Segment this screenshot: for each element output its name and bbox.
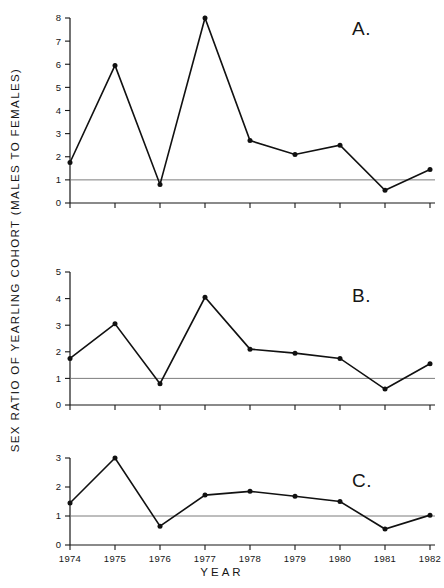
figure-plot-area: 0123456780123450123197419751976197719781… <box>0 0 444 588</box>
y-tick-label: 3 <box>56 452 61 463</box>
data-point <box>338 499 343 504</box>
data-point <box>293 152 298 157</box>
panel-a: 012345678 <box>56 12 435 208</box>
x-tick-label: 1979 <box>284 553 306 564</box>
data-point <box>428 513 433 518</box>
x-axis-tick-labels: 197419751976197719781979198019811982 <box>59 553 441 564</box>
figure-root: SEX RATIO OF YEARLING COHORT (MALES TO F… <box>0 0 444 588</box>
y-tick-label: 0 <box>56 539 61 550</box>
y-tick-label: 4 <box>56 293 61 304</box>
panel-a-letter: A. <box>352 18 371 40</box>
data-point <box>338 143 343 148</box>
y-tick-label: 5 <box>56 82 61 93</box>
y-tick-label: 0 <box>56 399 61 410</box>
data-point <box>383 188 388 193</box>
y-tick-label: 1 <box>56 174 61 185</box>
y-tick-label: 1 <box>56 510 61 521</box>
x-tick-label: 1974 <box>59 553 81 564</box>
panel-c-letter: C. <box>352 470 372 492</box>
data-point <box>338 356 343 361</box>
data-point <box>68 356 73 361</box>
data-point <box>203 16 208 21</box>
data-point <box>113 63 118 68</box>
data-point <box>68 500 73 505</box>
data-point <box>203 295 208 300</box>
x-tick-label: 1980 <box>329 553 351 564</box>
data-point <box>68 160 73 165</box>
data-series-line <box>70 18 430 190</box>
y-tick-label: 7 <box>56 36 61 47</box>
data-point <box>428 361 433 366</box>
y-tick-label: 1 <box>56 373 61 384</box>
data-point <box>158 524 163 529</box>
data-point <box>113 321 118 326</box>
y-tick-label: 0 <box>56 197 61 208</box>
x-tick-label: 1981 <box>374 553 396 564</box>
y-tick-label: 2 <box>56 481 61 492</box>
y-tick-label: 4 <box>56 105 61 116</box>
y-tick-label: 3 <box>56 128 61 139</box>
data-point <box>248 347 253 352</box>
x-tick-label: 1977 <box>194 553 216 564</box>
data-point <box>383 387 388 392</box>
x-tick-label: 1978 <box>239 553 261 564</box>
y-tick-label: 5 <box>56 266 61 277</box>
x-tick-label: 1976 <box>149 553 171 564</box>
data-point <box>248 489 253 494</box>
panel-b: 012345 <box>56 266 435 410</box>
y-tick-label: 6 <box>56 59 61 70</box>
y-tick-label: 2 <box>56 346 61 357</box>
data-point <box>248 138 253 143</box>
data-point <box>428 167 433 172</box>
panel-b-letter: B. <box>352 285 371 307</box>
data-point <box>203 493 208 498</box>
data-series-line <box>70 297 430 389</box>
y-tick-label: 2 <box>56 151 61 162</box>
panel-c: 0123 <box>56 452 435 550</box>
data-point <box>158 182 163 187</box>
data-point <box>293 494 298 499</box>
data-point <box>383 527 388 532</box>
x-tick-label: 1975 <box>104 553 126 564</box>
data-point <box>293 351 298 356</box>
y-tick-label: 3 <box>56 320 61 331</box>
data-point <box>158 381 163 386</box>
x-tick-label: 1982 <box>419 553 441 564</box>
data-point <box>113 456 118 461</box>
y-tick-label: 8 <box>56 12 61 23</box>
x-axis-title: YEAR <box>0 566 444 578</box>
